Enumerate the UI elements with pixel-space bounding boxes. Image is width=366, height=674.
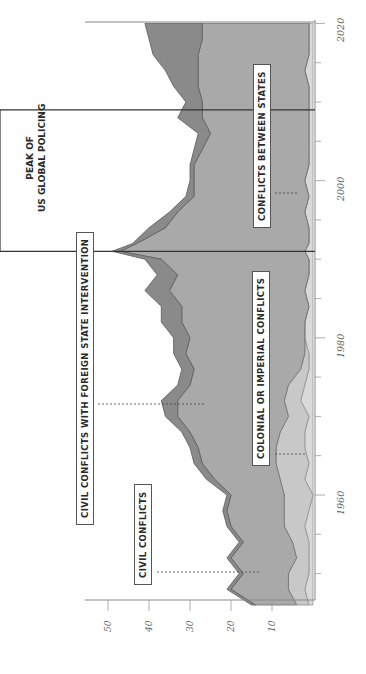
label-civil-conflicts: CIVIL CONFLICTS	[134, 484, 152, 585]
y-tick-40: 40	[144, 621, 154, 632]
label-between-states: CONFLICTS BETWEEN STATES	[253, 64, 271, 228]
label-colonial-imperial: COLONIAL OR IMPERIAL CONFLICTS	[252, 271, 270, 466]
peak-label-line2: US GLOBAL POLICING	[36, 104, 48, 212]
peak-label-line1: PEAK OF	[24, 104, 36, 212]
x-tick-2000: 2000	[335, 177, 346, 201]
x-tick-2020: 2020	[335, 18, 346, 42]
x-tick-1960: 1960	[335, 491, 346, 515]
label-civil-foreign-intervention: CIVIL CONFLICTS WITH FOREIGN STATE INTER…	[76, 232, 94, 525]
y-tick-50: 50	[103, 621, 113, 632]
stacked-area-chart	[0, 0, 366, 674]
y-tick-20: 20	[226, 621, 236, 632]
y-tick-10: 10	[267, 621, 277, 632]
x-tick-1980: 1980	[335, 334, 346, 358]
y-tick-30: 30	[185, 621, 195, 632]
peak-annotation-label: PEAK OF US GLOBAL POLICING	[24, 104, 48, 212]
